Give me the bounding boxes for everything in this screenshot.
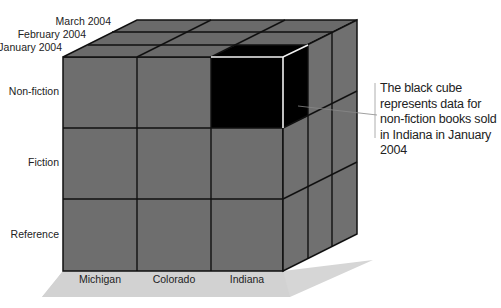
label-row-reference: Reference [11, 228, 60, 240]
label-row-fiction: Fiction [28, 156, 59, 168]
label-time-january: January 2004 [0, 41, 62, 53]
label-col-colorado: Colorado [153, 273, 196, 285]
label-time-february: February 2004 [18, 28, 86, 40]
label-col-michigan: Michigan [79, 273, 121, 285]
highlight-cube-front [211, 57, 283, 128]
highlight-cube-side [283, 45, 308, 128]
label-time-march: March 2004 [56, 15, 112, 27]
label-row-nonfiction: Non-fiction [9, 85, 59, 97]
label-col-indiana: Indiana [230, 273, 265, 285]
annotation-text: The black cube represents data for non-f… [380, 81, 500, 159]
